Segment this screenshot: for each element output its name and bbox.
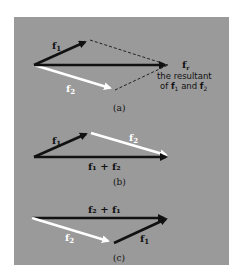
label-f2: f2: [66, 83, 75, 96]
subfigure-c: f₂ + f₁ f2 f1 (c): [32, 204, 166, 263]
label-resultant: fr: [182, 59, 190, 71]
label-f2: f2: [129, 132, 138, 145]
label-f1: f1: [52, 40, 61, 53]
caption-a: (a): [113, 103, 125, 113]
label-sum: f₁ + f₂: [88, 161, 121, 172]
subfigure-a: f1 f2 fr the resultant of f1 and f2 (a): [34, 40, 212, 113]
caption-c: (c): [113, 253, 125, 263]
dashed-line-top: [90, 40, 168, 65]
resultant-note-line2: of f1 and f2: [160, 81, 208, 92]
caption-b: (b): [113, 177, 126, 187]
vector-f2-arrow: [34, 65, 110, 88]
resultant-note-line1: the resultant: [157, 71, 212, 81]
label-f1: f1: [52, 135, 61, 148]
label-f2: f2: [65, 232, 74, 245]
vector-addition-diagram: f1 f2 fr the resultant of f1 and f2 (a) …: [0, 0, 245, 278]
subfigure-b: f1 f2 f₁ + f₂ (b): [34, 132, 166, 187]
label-sum: f₂ + f₁: [88, 204, 121, 215]
label-f1: f1: [140, 233, 149, 246]
